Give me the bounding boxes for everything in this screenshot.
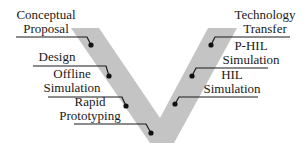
label-offline-simulation: Offline Simulation — [42, 67, 102, 95]
label-line1: Design — [30, 50, 84, 64]
label-line1: P-HIL — [220, 39, 282, 53]
label-line1: HIL — [202, 68, 262, 82]
stage-dot-conceptual-proposal — [88, 42, 93, 47]
label-line1: Offline — [42, 67, 102, 81]
label-design: Design — [30, 50, 84, 64]
v-model-diagram: Conceptual Proposal Design Offline Simul… — [0, 0, 306, 143]
stage-dot-technology-transfer — [208, 42, 213, 47]
stage-dot-offline-simulation — [123, 103, 128, 108]
label-line2: Simulation — [202, 82, 262, 96]
label-technology-transfer: Technology Transfer — [234, 8, 296, 36]
label-line2: Simulation — [42, 81, 102, 95]
label-rapid-prototyping: Rapid Prototyping — [58, 95, 122, 123]
label-p-hil-simulation: P-HIL Simulation — [220, 39, 282, 67]
stage-dot-design — [106, 73, 111, 78]
label-hil-simulation: HIL Simulation — [202, 68, 262, 96]
label-line1: Rapid — [58, 95, 122, 109]
label-conceptual-proposal: Conceptual Proposal — [14, 8, 78, 36]
stage-dot-rapid-prototyping — [148, 130, 153, 135]
stage-dot-p-hil-simulation — [189, 73, 194, 78]
label-line2: Simulation — [220, 53, 282, 67]
label-line2: Proposal — [14, 22, 78, 36]
label-line2: Prototyping — [58, 109, 122, 123]
label-line2: Transfer — [234, 22, 296, 36]
label-line1: Technology — [234, 8, 296, 22]
stage-dot-hil-simulation — [172, 101, 177, 106]
label-line1: Conceptual — [14, 8, 78, 22]
